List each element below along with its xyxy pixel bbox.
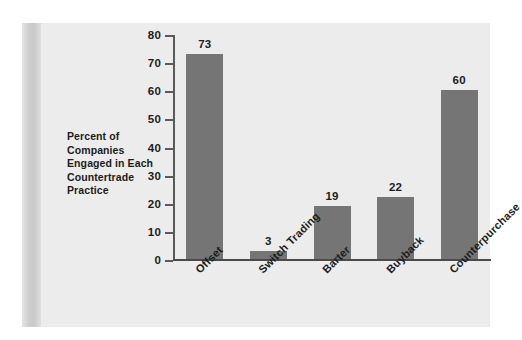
- y-axis-spine: [173, 35, 175, 260]
- y-axis-tick-mark: [165, 35, 173, 37]
- bar-value-label: 22: [389, 181, 402, 193]
- chart-panel: Percent of Companies Engaged in Each Cou…: [22, 23, 490, 327]
- panel-left-stripe: [22, 23, 41, 327]
- bar-value-label: 60: [453, 74, 466, 86]
- y-axis-tick-mark: [165, 148, 173, 150]
- y-axis-tick-label: 10: [148, 226, 161, 238]
- y-axis-tick-label: 20: [148, 198, 161, 210]
- y-axis-tick-label: 30: [148, 170, 161, 182]
- y-axis-title-line: Practice: [67, 184, 171, 198]
- y-axis-tick-label: 40: [148, 142, 161, 154]
- y-axis-tick-mark: [165, 204, 173, 206]
- bar: [186, 54, 223, 259]
- y-axis-tick-mark: [165, 232, 173, 234]
- y-axis-tick-mark: [165, 63, 173, 65]
- y-axis-tick-label: 60: [148, 85, 161, 97]
- y-axis-tick-mark: [165, 119, 173, 121]
- bar-value-label: 73: [198, 38, 211, 50]
- y-axis-tick-mark: [165, 260, 173, 262]
- bar-value-label: 19: [325, 190, 338, 202]
- y-axis-title: Percent of Companies Engaged in Each Cou…: [67, 130, 171, 198]
- plot-area: 01020304050607080 733192260 OffsetSwitch…: [173, 35, 491, 260]
- bar: [441, 90, 478, 259]
- bar-value-label: 3: [265, 235, 272, 247]
- y-axis-tick-label: 50: [148, 113, 161, 125]
- y-axis-tick-label: 70: [148, 57, 161, 69]
- y-axis-tick-mark: [165, 176, 173, 178]
- y-axis-tick-label: 80: [148, 29, 161, 41]
- y-axis-tick-label: 0: [154, 254, 161, 266]
- y-axis-tick-mark: [165, 91, 173, 93]
